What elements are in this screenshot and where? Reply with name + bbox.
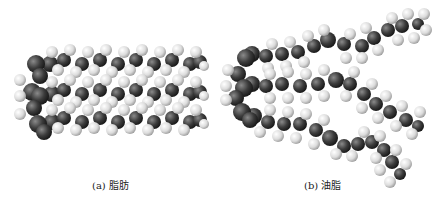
caption-fat: (a) 脂肪: [92, 177, 129, 192]
oil-molecule: [220, 8, 432, 188]
oil-glycerol-backbone: [220, 49, 258, 128]
fat-chain-1: [42, 44, 209, 78]
oil-chain-1: [244, 8, 432, 74]
molecule-figure: [0, 0, 438, 197]
fat-molecule: [14, 44, 209, 140]
caption-oil: (b) 油脂: [304, 177, 341, 192]
oil-chain-2: [244, 64, 426, 140]
